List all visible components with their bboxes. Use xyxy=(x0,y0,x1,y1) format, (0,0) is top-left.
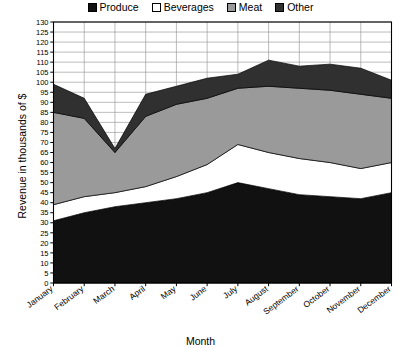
svg-text:115: 115 xyxy=(37,48,49,57)
svg-text:120: 120 xyxy=(36,38,49,47)
svg-text:75: 75 xyxy=(40,128,48,137)
svg-text:March: March xyxy=(91,283,116,305)
svg-text:10: 10 xyxy=(40,259,48,268)
svg-text:July: July xyxy=(221,283,240,301)
svg-text:40: 40 xyxy=(40,198,48,207)
svg-text:85: 85 xyxy=(40,108,48,117)
svg-text:55: 55 xyxy=(40,168,48,177)
y-axis-tick-labels: 0510152025303540455055606570758085909510… xyxy=(36,18,49,288)
svg-text:November: November xyxy=(325,284,362,316)
svg-text:125: 125 xyxy=(36,28,49,37)
svg-text:May: May xyxy=(159,283,178,301)
svg-text:January: January xyxy=(25,283,56,310)
x-axis-tick-labels: JanuaryFebruaryMarchAprilMayJuneJulyAugu… xyxy=(25,283,393,316)
svg-text:45: 45 xyxy=(40,188,48,197)
svg-text:February: February xyxy=(52,283,86,312)
svg-text:80: 80 xyxy=(40,118,48,127)
svg-text:60: 60 xyxy=(40,158,48,167)
svg-text:90: 90 xyxy=(40,98,48,107)
svg-text:20: 20 xyxy=(40,239,48,248)
svg-text:105: 105 xyxy=(36,68,49,77)
svg-text:50: 50 xyxy=(40,178,48,187)
svg-text:95: 95 xyxy=(40,88,48,97)
svg-text:100: 100 xyxy=(36,78,49,87)
svg-text:15: 15 xyxy=(40,249,48,258)
svg-text:June: June xyxy=(188,283,209,302)
svg-text:30: 30 xyxy=(40,218,48,227)
svg-text:December: December xyxy=(355,284,392,316)
svg-text:25: 25 xyxy=(40,229,48,238)
svg-text:130: 130 xyxy=(36,18,49,27)
svg-text:110: 110 xyxy=(37,58,49,67)
svg-text:April: April xyxy=(127,284,147,302)
svg-text:35: 35 xyxy=(40,208,48,217)
svg-text:65: 65 xyxy=(40,148,48,157)
svg-text:5: 5 xyxy=(44,269,48,278)
svg-text:70: 70 xyxy=(40,138,48,147)
